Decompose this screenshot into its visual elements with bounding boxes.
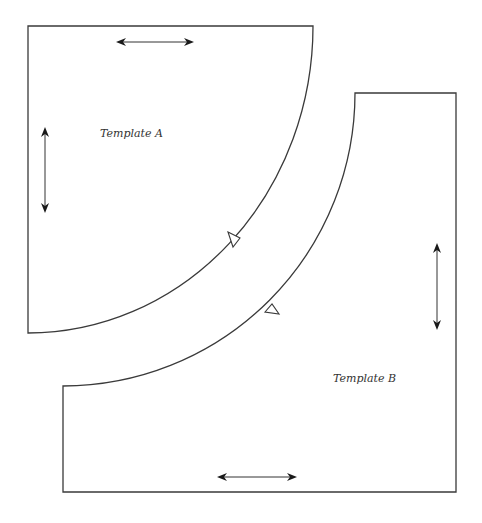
template-b-label: Template B — [333, 372, 396, 385]
template-a-outline — [28, 26, 313, 333]
template-a-label: Template A — [100, 127, 163, 140]
pattern-diagram — [0, 0, 482, 523]
template-a — [28, 26, 313, 333]
